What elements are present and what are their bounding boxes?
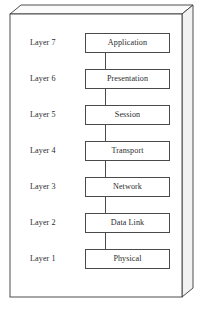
layer-row-3: Layer 3 Network xyxy=(22,177,172,197)
layer-box-physical[interactable]: Physical xyxy=(85,249,170,269)
layer-box-presentation[interactable]: Presentation xyxy=(85,69,170,89)
connector-4-3 xyxy=(105,161,106,177)
layer-label-2: Layer 2 xyxy=(30,213,56,233)
layer-box-application[interactable]: Application xyxy=(85,33,170,53)
layer-label-1: Layer 1 xyxy=(30,249,56,269)
connector-5-4 xyxy=(105,125,106,141)
layer-row-2: Layer 2 Data Link xyxy=(22,213,172,233)
layer-label-3: Layer 3 xyxy=(30,177,56,197)
layer-label-6: Layer 6 xyxy=(30,69,56,89)
layer-row-6: Layer 6 Presentation xyxy=(22,69,172,89)
layer-box-data-link[interactable]: Data Link xyxy=(85,213,170,233)
connector-3-2 xyxy=(105,197,106,213)
layer-row-7: Layer 7 Application xyxy=(22,33,172,53)
layer-row-4: Layer 4 Transport xyxy=(22,141,172,161)
layer-label-5: Layer 5 xyxy=(30,105,56,125)
layer-box-label-transport: Transport xyxy=(86,142,169,160)
layer-label-7: Layer 7 xyxy=(30,33,56,53)
layer-stack: Layer 7 Application Layer 6 Presentation… xyxy=(0,0,208,312)
connector-6-5 xyxy=(105,89,106,105)
layer-row-1: Layer 1 Physical xyxy=(22,249,172,269)
layer-box-network[interactable]: Network xyxy=(85,177,170,197)
layer-box-session[interactable]: Session xyxy=(85,105,170,125)
layer-box-label-application: Application xyxy=(86,34,169,52)
layer-label-4: Layer 4 xyxy=(30,141,56,161)
layer-box-transport[interactable]: Transport xyxy=(85,141,170,161)
osi-model-diagram: Layer 7 Application Layer 6 Presentation… xyxy=(0,0,208,312)
layer-row-5: Layer 5 Session xyxy=(22,105,172,125)
connector-7-6 xyxy=(105,53,106,69)
connector-2-1 xyxy=(105,233,106,249)
layer-box-label-network: Network xyxy=(86,178,169,196)
layer-box-label-data-link: Data Link xyxy=(86,214,169,232)
layer-box-label-session: Session xyxy=(86,106,169,124)
layer-box-label-presentation: Presentation xyxy=(86,70,169,88)
layer-box-label-physical: Physical xyxy=(86,250,169,268)
